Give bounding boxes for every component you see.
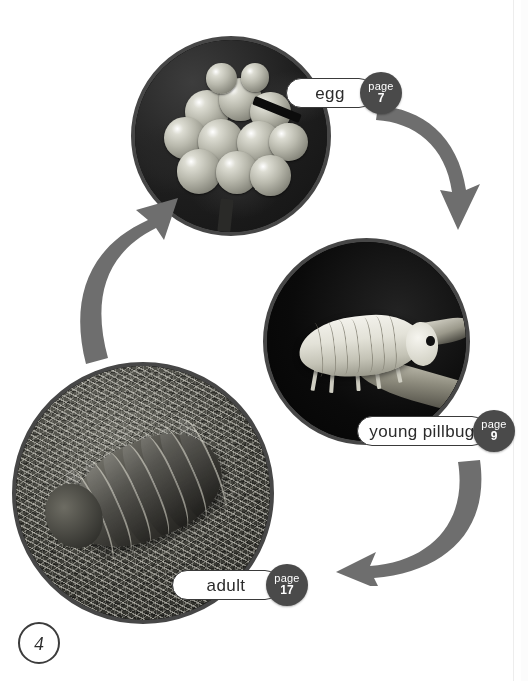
- egg-page-badge[interactable]: page 7: [360, 72, 402, 114]
- young-pillbug-page-badge[interactable]: page 9: [473, 410, 515, 452]
- stage-label-adult[interactable]: adult page 17: [172, 564, 308, 606]
- stage-label-young-pillbug[interactable]: young pillbug page 9: [357, 410, 515, 452]
- young-pillbug-label-pill[interactable]: young pillbug: [357, 416, 487, 446]
- egg-page-number: 7: [378, 92, 385, 106]
- egg-page-word: page: [368, 81, 393, 92]
- adult-page-number: 17: [280, 584, 293, 598]
- adult-label-text: adult: [207, 577, 246, 594]
- adult-page-word: page: [274, 573, 299, 584]
- stage-label-egg[interactable]: egg page 7: [286, 72, 402, 114]
- adult-page-badge[interactable]: page 17: [266, 564, 308, 606]
- young-pillbug-label-text: young pillbug: [369, 423, 474, 440]
- page-scan-edge-fill: [521, 0, 528, 681]
- arrow-egg-to-young-pillbug: [370, 106, 500, 241]
- young-pillbug-page-number: 9: [491, 430, 498, 444]
- arrow-young-pillbug-to-adult: [330, 456, 495, 586]
- page-scan-edge-line: [513, 0, 514, 681]
- young-pillbug-page-word: page: [481, 419, 506, 430]
- page-number-folio: 4: [18, 622, 60, 664]
- arrow-adult-to-egg: [56, 186, 178, 368]
- book-page: egg page 7: [0, 0, 528, 681]
- folio-number-text: 4: [34, 634, 44, 653]
- egg-label-text: egg: [315, 85, 345, 102]
- adult-label-pill[interactable]: adult: [172, 570, 280, 600]
